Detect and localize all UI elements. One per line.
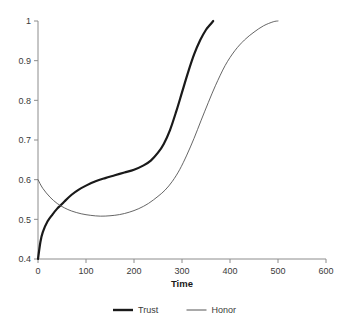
x-axis-title: Time — [171, 278, 193, 289]
y-tick-label: 0.8 — [18, 96, 31, 106]
y-tick-label: 0.9 — [18, 56, 31, 66]
chart-container: 0.40.50.60.70.80.91 0100200300400500600 … — [0, 0, 351, 333]
x-axis: 0100200300400500600 — [35, 259, 333, 276]
legend-label-trust: Trust — [138, 305, 159, 315]
x-tick-label: 600 — [318, 266, 333, 276]
line-chart: 0.40.50.60.70.80.91 0100200300400500600 … — [0, 0, 351, 333]
chart-legend: TrustHonor — [113, 305, 236, 315]
series-paths — [38, 21, 278, 259]
x-tick-label: 300 — [174, 266, 189, 276]
x-tick-label: 500 — [270, 266, 285, 276]
x-tick-label: 400 — [222, 266, 237, 276]
x-axis-ticks: 0100200300400500600 — [35, 259, 333, 276]
x-tick-label: 100 — [78, 266, 93, 276]
y-axis: 0.40.50.60.70.80.91 — [18, 16, 38, 264]
y-tick-label: 0.4 — [18, 254, 31, 264]
y-tick-label: 0.6 — [18, 175, 31, 185]
y-axis-ticks: 0.40.50.60.70.80.91 — [18, 16, 38, 264]
y-tick-label: 0.5 — [18, 215, 31, 225]
x-tick-label: 200 — [126, 266, 141, 276]
series-line-honor — [38, 21, 278, 216]
series-line-trust — [38, 21, 213, 259]
y-tick-label: 0.7 — [18, 135, 31, 145]
x-tick-label: 0 — [35, 266, 40, 276]
legend-label-honor: Honor — [212, 305, 237, 315]
y-tick-label: 1 — [26, 16, 31, 26]
